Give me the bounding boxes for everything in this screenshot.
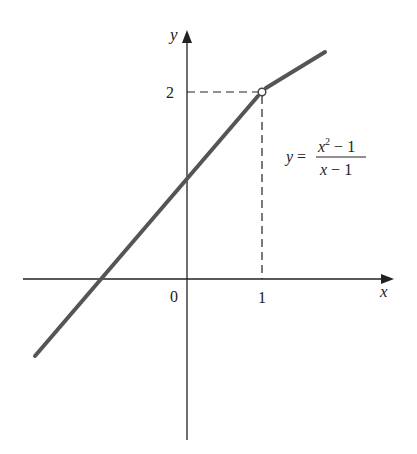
function-graph: y x 0 1 2 y = x2 − 1 x − 1 xyxy=(0,0,417,454)
function-formula: y = x2 − 1 x − 1 xyxy=(284,136,366,178)
function-line-upper xyxy=(266,52,325,88)
formula-denominator: x − 1 xyxy=(319,161,352,178)
formula-numerator: x2 − 1 xyxy=(317,136,355,155)
formula-lhs: y = xyxy=(284,148,306,166)
hole-marker xyxy=(258,88,266,96)
x-axis-label: x xyxy=(379,282,388,301)
tick-label-x1: 1 xyxy=(258,289,266,306)
function-line-lower xyxy=(35,96,258,356)
origin-label: 0 xyxy=(170,288,178,305)
y-axis-label: y xyxy=(168,25,178,44)
tick-label-y2: 2 xyxy=(166,84,174,101)
y-axis-arrow-icon xyxy=(182,30,192,43)
